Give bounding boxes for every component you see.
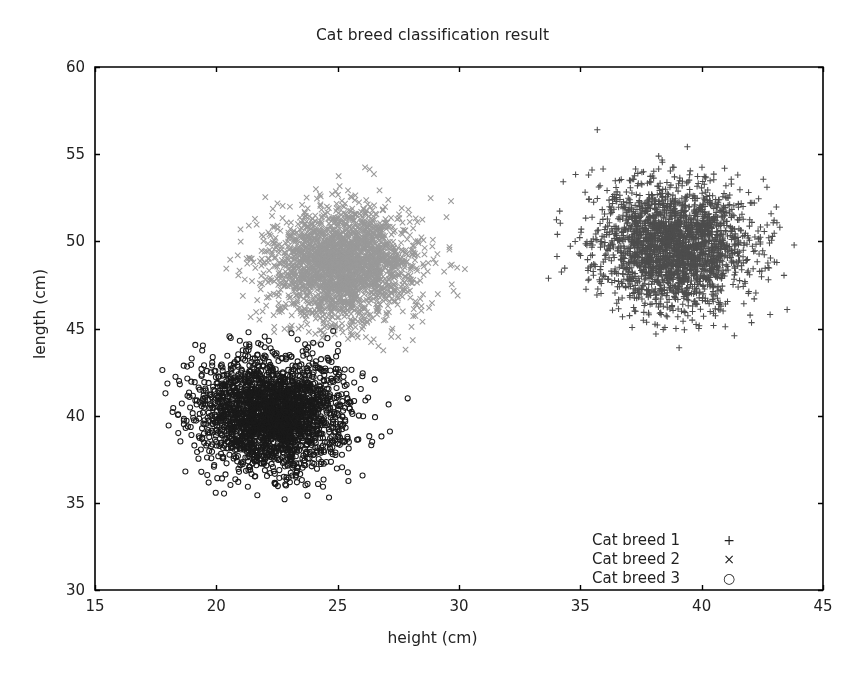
scatter-plot-figure: Cat breed classification result height (… (0, 0, 865, 680)
y-tick-label: 35 (49, 494, 85, 512)
x-tick-label: 45 (813, 597, 832, 615)
y-tick-label: 40 (49, 407, 85, 425)
y-tick-label: 30 (49, 581, 85, 599)
circle-marker-icon: ○ (720, 569, 738, 588)
legend: Cat breed 1 + Cat breed 2 × Cat breed 3 … (592, 531, 752, 588)
x-tick-label: 40 (692, 597, 711, 615)
x-tick-label: 25 (328, 597, 347, 615)
x-tick-label: 35 (571, 597, 590, 615)
chart-title: Cat breed classification result (0, 26, 865, 44)
y-tick-label: 60 (49, 58, 85, 76)
y-tick-label: 45 (49, 320, 85, 338)
x-axis-label: height (cm) (0, 629, 865, 647)
legend-label-cat-breed-2: Cat breed 2 (592, 550, 680, 569)
x-tick-label: 15 (85, 597, 104, 615)
x-tick-label: 30 (449, 597, 468, 615)
cross-marker-icon: × (720, 550, 738, 569)
y-tick-label: 55 (49, 145, 85, 163)
x-tick-label: 20 (207, 597, 226, 615)
legend-label-cat-breed-1: Cat breed 1 (592, 531, 680, 550)
y-tick-label: 50 (49, 232, 85, 250)
legend-label-cat-breed-3: Cat breed 3 (592, 569, 680, 588)
y-axis-label: length (cm) (31, 214, 49, 414)
legend-item-cat-breed-1: Cat breed 1 + (592, 531, 752, 550)
plus-marker-icon: + (720, 531, 738, 550)
legend-item-cat-breed-3: Cat breed 3 ○ (592, 569, 752, 588)
legend-item-cat-breed-2: Cat breed 2 × (592, 550, 752, 569)
